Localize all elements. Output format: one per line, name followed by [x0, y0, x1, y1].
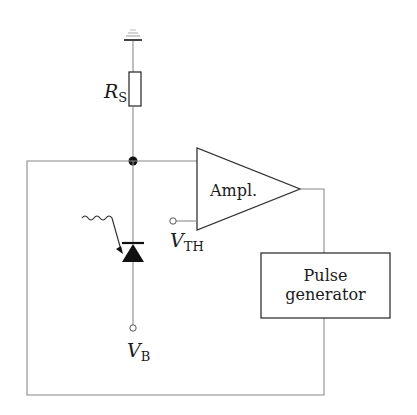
vb-label: VB: [127, 339, 150, 364]
resistor-label: RS: [103, 80, 127, 105]
ground-symbol: [124, 30, 142, 72]
resistor-rs: [129, 72, 141, 106]
wire-amp-pulsegen: [300, 189, 324, 253]
vth-terminal: [170, 218, 176, 224]
amplifier-label: Ampl.: [209, 181, 257, 200]
vth-label: VTH: [170, 229, 204, 254]
circuit-diagram: RS VB Ampl. VTH Pulse generator: [0, 0, 417, 415]
photodiode: [122, 243, 144, 262]
vb-terminal: [130, 325, 136, 331]
pulse-generator-label-line2: generator: [285, 285, 366, 304]
pulse-generator-label-line1: Pulse: [304, 266, 348, 285]
light-wave-icon: [82, 216, 123, 254]
